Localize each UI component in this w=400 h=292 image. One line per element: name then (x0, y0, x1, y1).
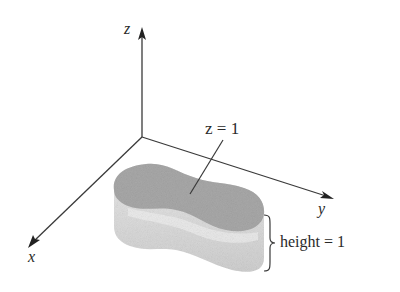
solid-region (114, 164, 264, 272)
z-axis-label: z (124, 20, 130, 38)
top-surface-label-text: z = 1 (205, 119, 239, 138)
y-axis-label: y (318, 200, 325, 218)
top-surface-label: z = 1 (205, 119, 239, 139)
z-axis (138, 27, 146, 137)
diagram-canvas: z y x z = 1 height = 1 (0, 0, 400, 292)
x-axis-label: x (28, 248, 35, 266)
height-label: height = 1 (280, 233, 345, 251)
height-brace (264, 215, 275, 271)
